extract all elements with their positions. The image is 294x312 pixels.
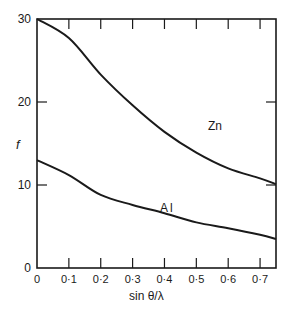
curve-zn	[37, 19, 276, 184]
x-tick-label: 0·3	[125, 274, 141, 285]
curves	[37, 19, 276, 239]
y-tick-label: 30	[3, 13, 31, 25]
x-tick-label: 0·4	[157, 274, 173, 285]
y-tick-label: 0	[3, 262, 31, 274]
chart-canvas	[0, 0, 294, 312]
x-tick-label: 0	[34, 274, 40, 285]
x-tick-label: 0·6	[220, 274, 236, 285]
y-axis-label: f	[16, 139, 20, 151]
y-tick-label: 10	[3, 179, 31, 191]
x-tick-label: 0·5	[188, 274, 204, 285]
y-tick-label: 20	[3, 96, 31, 108]
x-axis-label: sin θ/λ	[129, 290, 164, 302]
x-tick-label: 0·7	[252, 274, 268, 285]
series-label-al: Al	[160, 202, 175, 214]
series-label-zn: Zn	[208, 120, 222, 132]
x-tick-label: 0·2	[93, 274, 109, 285]
x-tick-label: 0·1	[61, 274, 77, 285]
